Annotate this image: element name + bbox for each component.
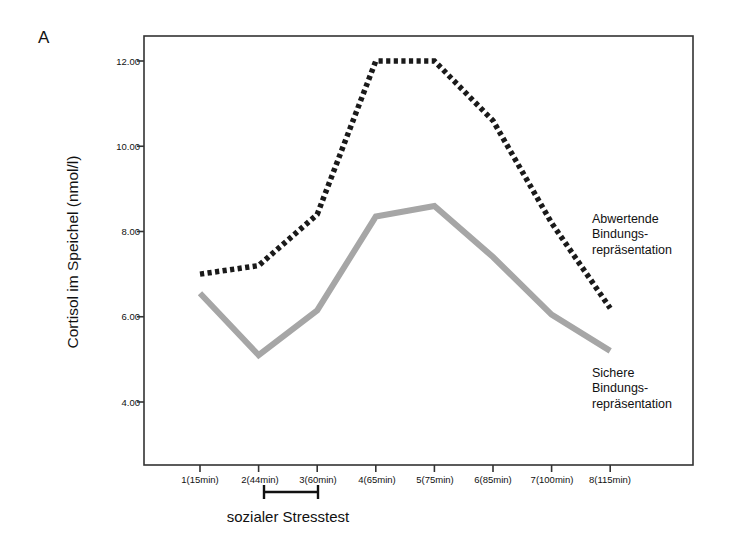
y-axis-ticks [137,61,144,402]
plot-frame [144,36,693,465]
series-line-dismissive [200,61,610,308]
x-axis-ticks [200,465,610,472]
series-line-secure [200,206,610,355]
series-path-secure [200,206,610,355]
stress-test-bracket [264,485,318,499]
plot-area [0,0,731,552]
figure-panel-a: A Cortisol im Speichel (nmol/l) 4.00 6.0… [0,0,731,552]
series-path-dismissive [200,61,610,308]
